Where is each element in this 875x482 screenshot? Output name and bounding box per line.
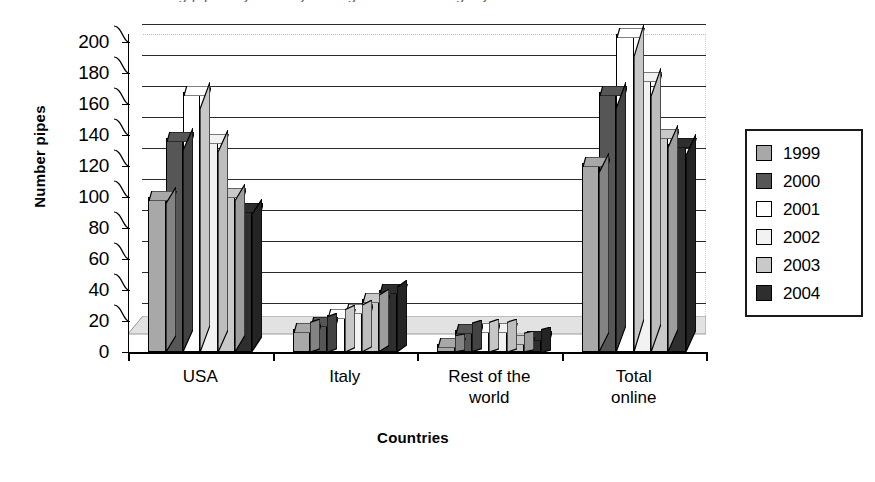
y-tick-mark <box>122 42 130 43</box>
x-tick-label-line: online <box>611 388 656 407</box>
x-tick-label: Rest of theworld <box>414 366 564 408</box>
y-axis-title: Number pipes <box>31 72 48 242</box>
bar <box>582 163 599 352</box>
x-tick-label-line: Total <box>616 367 652 386</box>
y-tick-label: 200 <box>49 32 109 51</box>
bar <box>327 315 344 352</box>
legend-label: 2004 <box>783 285 820 302</box>
y-tick-label: 180 <box>49 63 109 82</box>
y-tick-label: 0 <box>49 342 109 361</box>
bar <box>455 330 472 352</box>
legend-label: 2000 <box>783 173 820 190</box>
bar <box>200 140 217 352</box>
plot-area <box>128 34 706 352</box>
y-tick-label: 120 <box>49 156 109 175</box>
y-tick-label: 40 <box>49 280 109 299</box>
plot-left-depth-panel <box>128 34 143 334</box>
bar <box>437 344 454 352</box>
bar <box>668 144 685 352</box>
bar <box>651 135 668 352</box>
bar <box>362 299 379 352</box>
chart-figure: differentiating pipes by country of orig… <box>0 0 875 482</box>
y-axis-line <box>128 34 129 358</box>
legend-item[interactable]: 2002 <box>756 223 855 251</box>
cropped-caption-text: differentiating pipes by country of orig… <box>92 0 782 2</box>
legend-swatch-icon <box>756 285 772 301</box>
x-tick-label-line: world <box>469 388 510 407</box>
legend-swatch-icon <box>756 257 772 273</box>
legend-item[interactable]: 2000 <box>756 167 855 195</box>
legend: 199920002001200220032004 <box>745 129 863 317</box>
bar <box>524 337 541 353</box>
legend-label: 1999 <box>783 145 820 162</box>
y-tick-label: 20 <box>49 311 109 330</box>
y-tick-mark <box>122 228 130 229</box>
y-tick-label: 140 <box>49 125 109 144</box>
y-tick-mark <box>122 73 130 74</box>
bar-top-face <box>617 24 644 34</box>
legend-swatch-icon <box>756 229 772 245</box>
y-tick-label: 80 <box>49 218 109 237</box>
y-tick-mark <box>122 321 130 322</box>
y-tick-label: 160 <box>49 94 109 113</box>
bar <box>235 209 252 352</box>
bar <box>616 34 633 352</box>
legend-item[interactable]: 2003 <box>756 251 855 279</box>
bar <box>310 323 327 352</box>
bar <box>634 78 651 352</box>
y-tick-label: 60 <box>49 249 109 268</box>
x-axis-title: Countries <box>128 429 698 446</box>
bar <box>472 329 489 352</box>
legend-label: 2002 <box>783 229 820 246</box>
x-tick-mark <box>417 352 419 361</box>
bar <box>379 290 396 352</box>
y-tick-label: 100 <box>49 187 109 206</box>
bar <box>166 138 183 352</box>
bar <box>293 329 310 352</box>
y-axis <box>112 34 130 358</box>
legend-item[interactable]: 1999 <box>756 139 855 167</box>
legend-item[interactable]: 2004 <box>756 279 855 307</box>
x-tick-label-line: USA <box>183 367 218 386</box>
y-tick-mark <box>122 290 130 291</box>
y-tick-mark <box>122 166 130 167</box>
gridline <box>142 24 706 25</box>
y-tick-mark <box>122 135 130 136</box>
x-tick-label-line: Rest of the <box>448 367 530 386</box>
legend-label: 2003 <box>783 257 820 274</box>
legend-swatch-icon <box>756 173 772 189</box>
x-tick-label: Totalonline <box>559 366 709 408</box>
y-tick-mark <box>122 197 130 198</box>
bar <box>507 341 524 352</box>
legend-label: 2001 <box>783 201 820 218</box>
y-tick-mark <box>122 104 130 105</box>
legend-item[interactable]: 2001 <box>756 195 855 223</box>
x-tick-label: Italy <box>270 366 420 387</box>
legend-swatch-icon <box>756 145 772 161</box>
bar <box>148 197 165 352</box>
bar <box>489 329 506 352</box>
x-tick-mark <box>273 352 275 361</box>
bar <box>218 194 235 352</box>
bar <box>183 92 200 352</box>
x-tick-label-line: Italy <box>329 367 360 386</box>
bar <box>599 92 616 352</box>
x-tick-label: USA <box>125 366 275 387</box>
x-tick-mark <box>706 352 708 361</box>
y-tick-mark <box>122 259 130 260</box>
x-tick-mark <box>562 352 564 361</box>
legend-swatch-icon <box>756 201 772 217</box>
x-tick-mark <box>128 352 130 361</box>
bar <box>345 310 362 352</box>
